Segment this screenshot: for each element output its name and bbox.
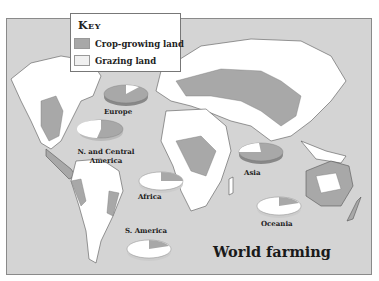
pie-asia <box>239 143 283 164</box>
key-label-grazing: Grazing land <box>95 56 156 66</box>
label-africa: Africa <box>138 192 161 201</box>
world-map <box>7 19 372 275</box>
crop-swatch <box>74 38 90 49</box>
key-item-crop: Crop-growing land <box>74 38 184 49</box>
grazing-swatch <box>74 55 90 66</box>
label-south-america: S. America <box>125 226 167 235</box>
label-north-central-america: N. and Central America <box>75 147 137 165</box>
pie-south-america <box>127 240 171 261</box>
label-oceania: Oceania <box>261 219 293 228</box>
key-label-crop: Crop-growing land <box>95 39 184 49</box>
label-asia: Asia <box>244 168 261 177</box>
key-item-grazing: Grazing land <box>74 55 156 66</box>
pie-africa <box>139 172 183 193</box>
pie-north-america <box>77 120 123 141</box>
map-title: World farming <box>213 243 331 260</box>
pie-europe <box>104 85 148 106</box>
key-title: Key <box>78 19 101 32</box>
pie-oceania <box>257 197 301 218</box>
map-frame <box>6 18 372 275</box>
label-europe: Europe <box>104 107 132 116</box>
map-key: Key Crop-growing land Grazing land <box>70 13 181 72</box>
